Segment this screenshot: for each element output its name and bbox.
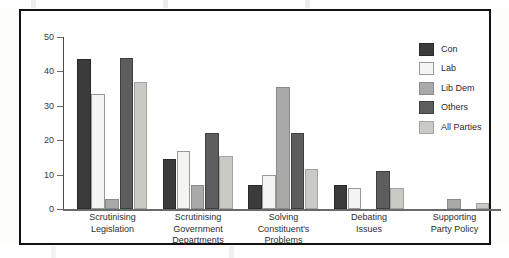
legend-swatch bbox=[419, 101, 434, 114]
y-tick-label: 30 bbox=[44, 102, 54, 111]
y-tick-label: 0 bbox=[49, 205, 54, 214]
bar bbox=[105, 199, 119, 209]
plot-area: 01020304050 bbox=[63, 37, 429, 209]
legend-label: Lab bbox=[441, 63, 456, 74]
scan-artifact-top bbox=[0, 0, 509, 8]
bar-group bbox=[248, 37, 319, 209]
bar bbox=[262, 175, 276, 209]
bar bbox=[447, 199, 461, 209]
x-category-label: SupportingParty Policy bbox=[405, 212, 505, 235]
legend-swatch bbox=[419, 82, 434, 95]
legend-item[interactable]: All Parties bbox=[419, 120, 509, 139]
bar bbox=[248, 185, 262, 209]
x-category-label-line: Supporting bbox=[405, 212, 505, 224]
bar-group bbox=[77, 37, 148, 209]
chart-figure: 01020304050 ScrutinisingLegislationScrut… bbox=[0, 0, 509, 258]
bar bbox=[390, 188, 404, 209]
legend-item[interactable]: Con bbox=[419, 42, 509, 61]
legend-swatch bbox=[419, 121, 434, 134]
bar bbox=[305, 169, 319, 209]
bar bbox=[348, 188, 362, 209]
x-category-label-line: Party Policy bbox=[405, 224, 505, 236]
bar bbox=[476, 203, 490, 209]
bar bbox=[134, 82, 148, 209]
legend-label: All Parties bbox=[441, 122, 482, 133]
y-tick-mark bbox=[57, 209, 63, 210]
bar bbox=[77, 59, 91, 209]
legend-item[interactable]: Lib Dem bbox=[419, 81, 509, 100]
legend-swatch bbox=[419, 62, 434, 75]
x-axis-category-labels: ScrutinisingLegislationScrutinisingGover… bbox=[63, 212, 501, 256]
y-tick-label: 20 bbox=[44, 136, 54, 145]
y-tick-label: 10 bbox=[44, 171, 54, 180]
bar bbox=[177, 151, 191, 209]
legend-label: Lib Dem bbox=[441, 83, 475, 94]
bar bbox=[219, 156, 233, 209]
y-tick-label: 40 bbox=[44, 67, 54, 76]
bar-group bbox=[163, 37, 234, 209]
bar bbox=[120, 58, 134, 209]
x-category-label-line: Problems bbox=[234, 235, 334, 247]
bar bbox=[276, 87, 290, 209]
legend-swatch bbox=[419, 43, 434, 56]
legend-item[interactable]: Others bbox=[419, 100, 509, 119]
bar bbox=[91, 94, 105, 209]
legend-item[interactable]: Lab bbox=[419, 61, 509, 80]
chart-frame: 01020304050 ScrutinisingLegislationScrut… bbox=[19, 9, 491, 245]
bar bbox=[376, 171, 390, 209]
bar bbox=[291, 133, 305, 209]
bar-groups bbox=[63, 37, 429, 209]
x-axis bbox=[63, 209, 501, 211]
bar-group bbox=[334, 37, 405, 209]
bar bbox=[334, 185, 348, 209]
bar bbox=[163, 159, 177, 209]
chart-legend: ConLabLib DemOthersAll Parties bbox=[419, 42, 509, 139]
y-tick-label: 50 bbox=[44, 33, 54, 42]
bar bbox=[191, 185, 205, 209]
bar bbox=[205, 133, 219, 209]
legend-label: Con bbox=[441, 44, 458, 55]
legend-label: Others bbox=[441, 102, 468, 113]
